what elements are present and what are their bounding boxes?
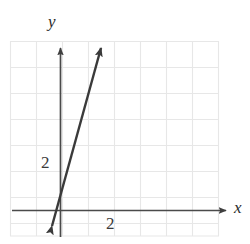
grid-vertical-lines xyxy=(11,41,219,236)
line-through-origin xyxy=(52,48,101,226)
y-axis-label: y xyxy=(48,13,56,30)
plotted-line-series xyxy=(52,48,101,226)
coordinate-plane-figure: y x 2 2 xyxy=(0,0,250,244)
graph-canvas xyxy=(0,0,250,244)
grid-lines xyxy=(10,41,219,236)
x-axis-tick-label-2: 2 xyxy=(106,215,115,232)
axis-lines xyxy=(12,48,226,237)
x-axis-label: x xyxy=(234,199,242,216)
y-axis-tick-label-2: 2 xyxy=(41,154,50,171)
